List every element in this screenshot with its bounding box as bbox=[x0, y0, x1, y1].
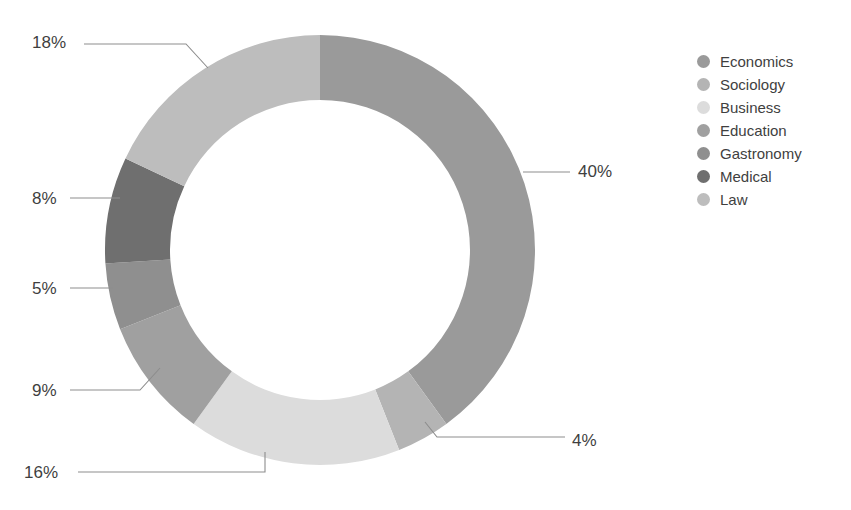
legend-item-sociology[interactable]: Sociology bbox=[697, 73, 847, 96]
legend-item-label: Economics bbox=[720, 54, 793, 69]
legend-swatch-icon bbox=[697, 170, 710, 183]
legend-item-label: Medical bbox=[720, 169, 772, 184]
legend-item-law[interactable]: Law bbox=[697, 188, 847, 211]
callout-label-business: 16% bbox=[24, 463, 58, 482]
chart-legend: EconomicsSociologyBusinessEducationGastr… bbox=[697, 50, 847, 211]
legend-swatch-icon bbox=[697, 101, 710, 114]
legend-item-label: Education bbox=[720, 123, 787, 138]
legend-item-education[interactable]: Education bbox=[697, 119, 847, 142]
callout-label-medical: 8% bbox=[32, 189, 57, 208]
donut-segment-business[interactable] bbox=[194, 371, 400, 465]
legend-swatch-icon bbox=[697, 55, 710, 68]
donut-segment-law[interactable] bbox=[125, 35, 320, 186]
donut-chart-figure: 18%8%5%9%16%40%4% EconomicsSociologyBusi… bbox=[0, 0, 851, 510]
callout-label-education: 9% bbox=[32, 381, 57, 400]
leader-line-sociology bbox=[425, 422, 565, 437]
donut-segment-group bbox=[105, 35, 535, 465]
callout-label-law: 18% bbox=[32, 33, 66, 52]
legend-item-gastronomy[interactable]: Gastronomy bbox=[697, 142, 847, 165]
callout-label-sociology: 4% bbox=[572, 431, 597, 450]
legend-item-label: Sociology bbox=[720, 77, 785, 92]
legend-item-label: Gastronomy bbox=[720, 146, 802, 161]
callout-label-gastronomy: 5% bbox=[32, 279, 57, 298]
legend-swatch-icon bbox=[697, 193, 710, 206]
leader-line-business bbox=[78, 452, 265, 472]
callout-label-economics: 40% bbox=[578, 162, 612, 181]
legend-swatch-icon bbox=[697, 78, 710, 91]
legend-item-economics[interactable]: Economics bbox=[697, 50, 847, 73]
legend-item-business[interactable]: Business bbox=[697, 96, 847, 119]
legend-item-medical[interactable]: Medical bbox=[697, 165, 847, 188]
leader-line-law bbox=[84, 44, 208, 68]
legend-item-label: Business bbox=[720, 100, 781, 115]
legend-swatch-icon bbox=[697, 124, 710, 137]
legend-item-label: Law bbox=[720, 192, 748, 207]
donut-segment-economics[interactable] bbox=[320, 35, 535, 424]
legend-swatch-icon bbox=[697, 147, 710, 160]
